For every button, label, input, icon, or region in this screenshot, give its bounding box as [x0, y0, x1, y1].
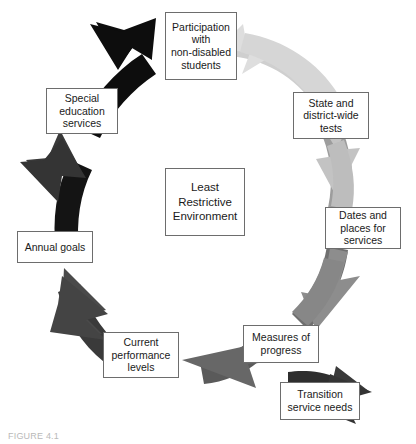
arrow-dates-places-to-measures — [292, 246, 360, 330]
node-annual-goals[interactable]: Annual goals — [17, 231, 93, 263]
node-state-tests[interactable]: State and district-wide tests — [293, 92, 369, 139]
figure-caption: FIGURE 4.1 — [8, 431, 59, 441]
node-special-education-services[interactable]: Special education services — [46, 88, 118, 134]
node-measures-of-progress[interactable]: Measures of progress — [243, 325, 319, 363]
node-participation[interactable]: Participation with non-disabled students — [165, 12, 237, 80]
node-dates-places[interactable]: Dates and places for services — [325, 207, 401, 249]
node-current-performance-levels[interactable]: Current performance levels — [103, 332, 179, 378]
center-label-least-restrictive-environment: Least Restrictive Environment — [165, 168, 245, 236]
node-transition-service-needs[interactable]: Transition service needs — [280, 382, 360, 420]
figure-canvas: Least Restrictive Environment Participat… — [0, 0, 416, 444]
